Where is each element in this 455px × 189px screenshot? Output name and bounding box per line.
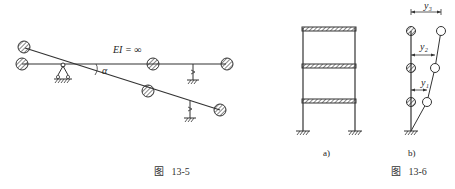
displaced-mass-icon <box>431 64 440 73</box>
displaced-mass-icon <box>437 27 446 36</box>
mass-icon <box>147 58 159 70</box>
spring-support-icon <box>187 64 199 84</box>
sub-figure-b-label: b) <box>408 148 416 158</box>
mass-icon <box>16 58 28 70</box>
dimension-y2 <box>411 54 435 57</box>
figure-13-6b-model <box>404 9 446 135</box>
rigid-floor-beam <box>302 64 356 68</box>
sub-figure-a-label: a) <box>323 148 330 158</box>
fixed-support-icon <box>404 131 418 135</box>
fixed-support-icon <box>348 131 362 135</box>
mass-icon <box>221 58 233 70</box>
stiffness-label: EI = ∞ <box>113 44 141 55</box>
displacement-y1-label: y₁ <box>421 77 429 88</box>
rigid-floor-beam <box>302 99 356 103</box>
figure-13-5-caption: 图 13-5 <box>154 163 190 178</box>
displacement-y3-label: y₃ <box>424 0 432 11</box>
displaced-mass-icon <box>423 98 432 107</box>
rigid-floor-beam <box>302 27 356 31</box>
figure-13-6a-frame <box>296 27 362 135</box>
angle-label: α <box>102 65 107 76</box>
mass-icon <box>407 98 416 107</box>
mass-icon <box>407 64 416 73</box>
mass-icon <box>142 85 154 97</box>
displacement-y2-label: y₂ <box>420 41 428 52</box>
fixed-support-icon <box>296 131 310 135</box>
pin-support-icon <box>54 63 72 83</box>
spring-support-icon <box>184 101 196 122</box>
mass-icon <box>214 104 226 116</box>
figures-canvas <box>0 0 455 189</box>
mass-icon <box>18 41 30 53</box>
figure-13-6-caption: 图 13-6 <box>391 163 427 178</box>
dimension-y1 <box>411 89 427 92</box>
mass-icon <box>407 27 416 36</box>
angle-arc <box>95 64 97 75</box>
